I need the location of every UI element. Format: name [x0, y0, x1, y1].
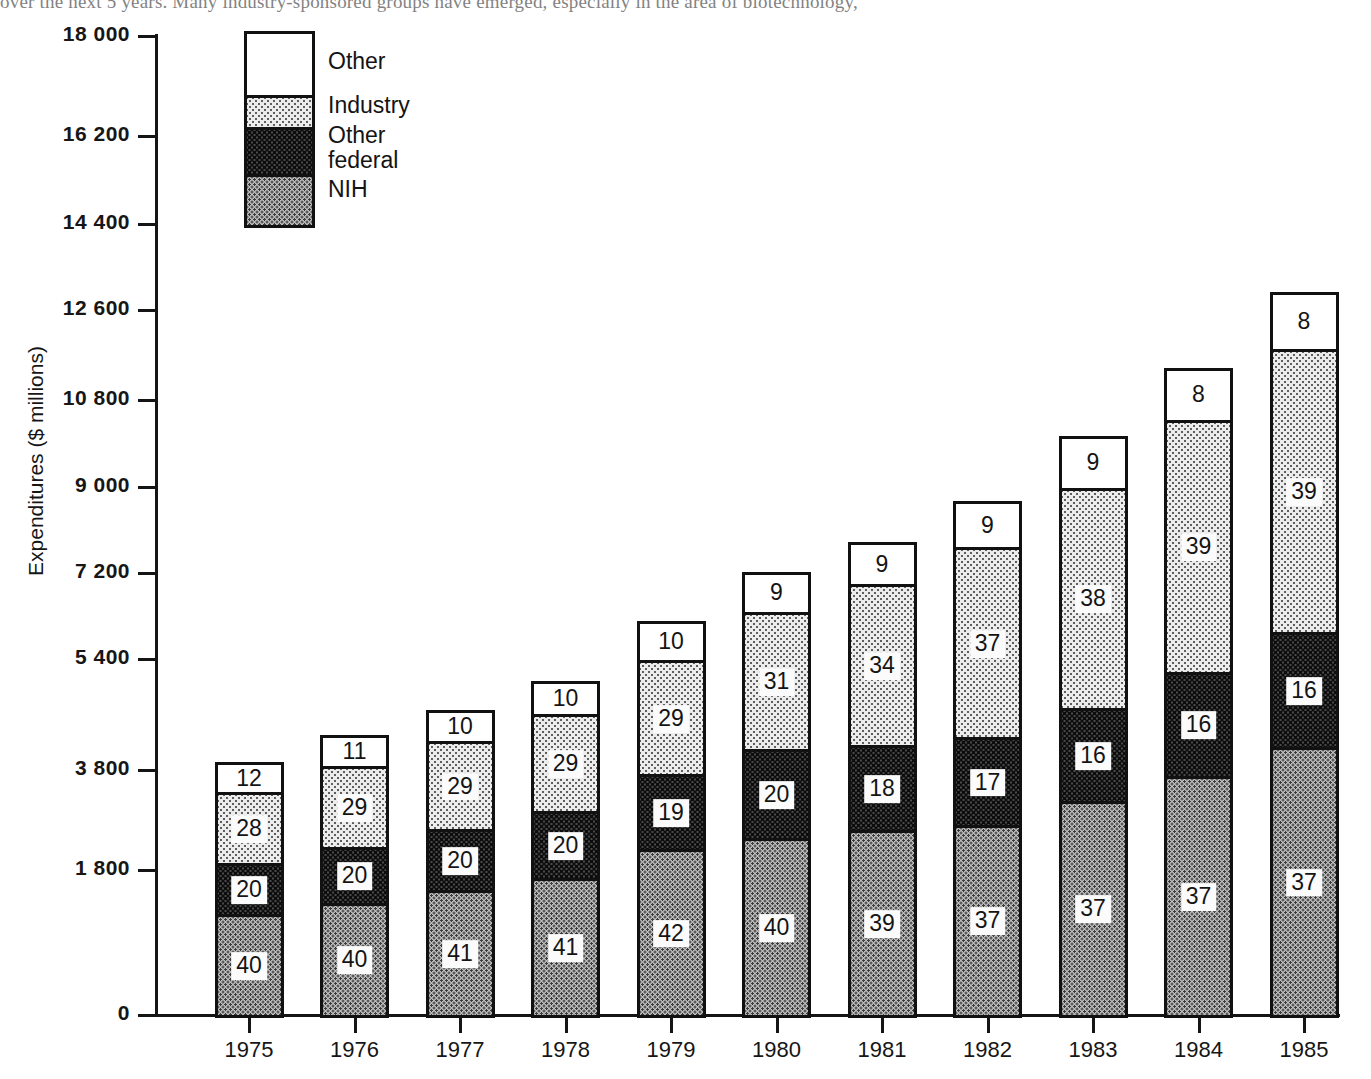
bar-segment-1976-industry[interactable]: 29 [320, 766, 389, 850]
bar-segment-1984-industry[interactable]: 39 [1164, 420, 1233, 675]
x-tick-label-1982: 1982 [928, 1037, 1048, 1063]
bar-segment-value: 16 [1286, 677, 1322, 705]
y-tick-label: 0 [10, 1001, 130, 1025]
bar-segment-1985-other[interactable]: 8 [1270, 292, 1339, 353]
bar-segment-value: 41 [442, 940, 478, 968]
y-tick-mark [138, 135, 156, 138]
bar-segment-value: 37 [970, 908, 1006, 936]
bar-segment-1985-nih[interactable]: 37 [1270, 747, 1339, 1018]
x-tick-mark [670, 1016, 673, 1033]
y-tick-mark [138, 572, 156, 575]
bar-segment-value: 10 [442, 713, 478, 741]
bar-segment-1981-nih[interactable]: 39 [848, 830, 917, 1018]
x-tick-label-1975: 1975 [189, 1037, 309, 1063]
bar-segment-1982-industry[interactable]: 37 [953, 547, 1022, 740]
chart-legend: OtherIndustryOtherfederalNIH [244, 31, 315, 222]
bar-segment-value: 16 [1181, 711, 1217, 739]
bar-segment-1985-otherfederal[interactable]: 16 [1270, 632, 1339, 751]
bar-segment-1977-otherfederal[interactable]: 20 [426, 829, 495, 893]
bar-segment-value: 12 [231, 765, 267, 793]
bar-segment-1975-industry[interactable]: 28 [215, 792, 284, 866]
bar-segment-1984-nih[interactable]: 37 [1164, 776, 1233, 1018]
bar-segment-value: 20 [548, 832, 584, 860]
y-tick-mark [138, 658, 156, 661]
bar-segment-1977-other[interactable]: 10 [426, 710, 495, 743]
x-tick-mark [354, 1016, 357, 1033]
bar-segment-1981-industry[interactable]: 34 [848, 584, 917, 748]
bar-segment-value: 29 [548, 750, 584, 778]
bar-segment-value: 10 [653, 628, 689, 656]
x-tick-label-1976: 1976 [295, 1037, 415, 1063]
bar-segment-1978-nih[interactable]: 41 [531, 878, 600, 1018]
x-tick-mark [776, 1016, 779, 1033]
bar-segment-value: 11 [338, 738, 372, 766]
y-tick-label: 7 200 [10, 559, 130, 583]
bar-segment-1980-industry[interactable]: 31 [742, 612, 811, 752]
legend-label-nih: NIH [328, 177, 368, 202]
y-tick-label: 5 400 [10, 645, 130, 669]
bar-segment-value: 38 [1075, 586, 1111, 614]
bar-segment-value: 39 [864, 910, 900, 938]
legend-swatch-otherfederal[interactable] [244, 127, 315, 180]
bar-segment-1983-other[interactable]: 9 [1059, 436, 1128, 491]
bar-segment-value: 29 [337, 794, 373, 822]
bar-segment-value: 9 [765, 579, 788, 607]
bar-segment-1984-otherfederal[interactable]: 16 [1164, 672, 1233, 779]
bar-segment-1981-other[interactable]: 9 [848, 542, 917, 588]
bar-segment-1976-otherfederal[interactable]: 20 [320, 847, 389, 906]
bar-segment-1980-other[interactable]: 9 [742, 572, 811, 615]
bar-segment-1975-nih[interactable]: 40 [215, 914, 284, 1018]
bar-segment-1980-nih[interactable]: 40 [742, 838, 811, 1018]
bar-segment-1978-otherfederal[interactable]: 20 [531, 811, 600, 881]
legend-label-other: Other [328, 49, 386, 74]
y-tick-label: 14 400 [10, 210, 130, 234]
bar-segment-value: 39 [1286, 478, 1322, 506]
bar-segment-1979-other[interactable]: 10 [637, 621, 706, 663]
bar-segment-1983-industry[interactable]: 38 [1059, 488, 1128, 711]
bar-segment-value: 40 [337, 947, 373, 975]
bar-segment-1975-otherfederal[interactable]: 20 [215, 863, 284, 917]
x-tick-label-1979: 1979 [611, 1037, 731, 1063]
bar-segment-value: 9 [976, 512, 999, 540]
legend-swatch-other[interactable] [244, 31, 315, 101]
bar-segment-1984-other[interactable]: 8 [1164, 368, 1233, 423]
y-tick-label: 3 800 [10, 756, 130, 780]
bar-segment-1977-nih[interactable]: 41 [426, 890, 495, 1018]
bar-segment-1979-otherfederal[interactable]: 19 [637, 774, 706, 852]
bar-segment-1975-other[interactable]: 12 [215, 762, 284, 795]
bar-segment-1979-nih[interactable]: 42 [637, 849, 706, 1018]
bar-segment-1976-nih[interactable]: 40 [320, 903, 389, 1018]
bar-segment-value: 16 [1075, 742, 1111, 770]
x-tick-mark [1303, 1016, 1306, 1033]
x-tick-label-1980: 1980 [717, 1037, 837, 1063]
legend-swatch-nih[interactable] [244, 174, 315, 228]
x-tick-label-1983: 1983 [1033, 1037, 1153, 1063]
bar-segment-value: 10 [548, 685, 584, 713]
bar-segment-1978-other[interactable]: 10 [531, 681, 600, 717]
bar-segment-1982-otherfederal[interactable]: 17 [953, 737, 1022, 827]
bar-segment-value: 28 [231, 815, 267, 843]
bar-segment-1980-otherfederal[interactable]: 20 [742, 749, 811, 841]
bar-segment-1983-nih[interactable]: 37 [1059, 801, 1128, 1018]
bar-segment-1982-nih[interactable]: 37 [953, 825, 1022, 1018]
bar-segment-1982-other[interactable]: 9 [953, 501, 1022, 550]
bar-segment-value: 37 [1075, 895, 1111, 923]
x-tick-label-1981: 1981 [822, 1037, 942, 1063]
y-tick-mark [138, 1014, 156, 1017]
bar-segment-1985-industry[interactable]: 39 [1270, 349, 1339, 634]
bar-segment-value: 37 [1181, 883, 1217, 911]
x-tick-label-1984: 1984 [1139, 1037, 1259, 1063]
bar-segment-1981-otherfederal[interactable]: 18 [848, 745, 917, 833]
bar-segment-1978-industry[interactable]: 29 [531, 714, 600, 814]
bar-segment-1979-industry[interactable]: 29 [637, 660, 706, 777]
y-tick-label: 1 800 [10, 856, 130, 880]
bar-segment-value: 8 [1293, 308, 1316, 336]
bar-segment-1977-industry[interactable]: 29 [426, 741, 495, 832]
y-tick-label: 12 600 [10, 296, 130, 320]
y-tick-mark [138, 486, 156, 489]
x-tick-mark [1092, 1016, 1095, 1033]
bar-segment-value: 40 [759, 914, 795, 942]
bar-segment-1983-otherfederal[interactable]: 16 [1059, 708, 1128, 804]
bar-segment-1976-other[interactable]: 11 [320, 735, 389, 769]
bar-segment-value: 29 [653, 705, 689, 733]
